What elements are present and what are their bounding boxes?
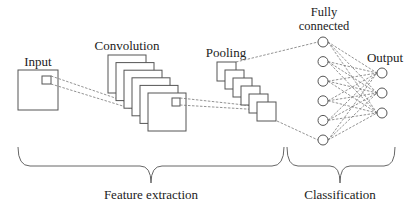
fully-connected-node [318, 135, 328, 145]
connection-line [328, 73, 377, 140]
pool-to-fc-line-top [236, 42, 318, 62]
fully-connected-layer [318, 37, 328, 145]
pooling-label: Pooling [206, 45, 247, 60]
fully-connected-node [318, 57, 328, 67]
feature-extraction-label: Feature extraction [104, 187, 199, 202]
output-node [377, 108, 387, 118]
fully-connected-node [318, 76, 328, 86]
fully-connected-label-line1: Fully [311, 5, 338, 19]
pooling-feature-maps [217, 62, 276, 121]
fully-connected-node [318, 96, 328, 106]
output-node [377, 68, 387, 78]
classification-label: Classification [304, 187, 376, 202]
output-label: Output [367, 50, 404, 65]
fully-connected-label-line2: connected [299, 19, 350, 33]
fully-connected-node [318, 115, 328, 125]
convolution-receptive-field [172, 98, 180, 106]
input-receptive-field [42, 76, 51, 84]
feature-extraction-brace [18, 147, 284, 183]
classification-brace [287, 147, 395, 183]
fully-connected-node [318, 37, 328, 47]
output-layer [377, 68, 387, 118]
pool-to-fc-line-bottom [277, 121, 318, 140]
pooling-map [257, 102, 276, 121]
output-node [377, 88, 387, 98]
input-label: Input [24, 54, 52, 69]
cnn-diagram: Input Convolution Pooling Fully connecte… [0, 0, 413, 207]
convolution-feature-maps [108, 55, 186, 131]
convolution-label: Convolution [94, 38, 160, 53]
